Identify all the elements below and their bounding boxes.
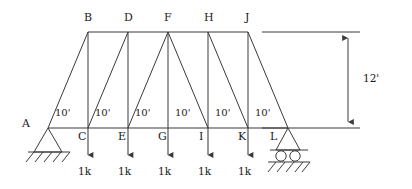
panel-dimension-4: 10': [175, 108, 190, 118]
panel-dimension-1: 10': [55, 108, 70, 118]
load-label-4: 1k: [198, 166, 211, 177]
panel-dimension-3: 10': [135, 108, 150, 118]
node-label-k: K: [238, 131, 246, 142]
panel-dimension-5: 10': [215, 108, 230, 118]
node-label-d: D: [124, 12, 133, 23]
node-label-a: A: [22, 118, 30, 129]
load-label-5: 1k: [238, 166, 251, 177]
truss-geometry: [0, 0, 412, 189]
load-label-2: 1k: [118, 166, 131, 177]
node-label-j: J: [245, 12, 250, 23]
node-label-b: B: [84, 12, 92, 23]
pin-support-a: [26, 128, 70, 162]
node-label-g: G: [158, 131, 167, 142]
node-label-i: I: [199, 131, 204, 142]
load-label-1: 1k: [78, 166, 91, 177]
node-label-c: C: [78, 131, 87, 142]
node-label-f: F: [164, 12, 172, 23]
panel-dimension-6: 10': [255, 108, 270, 118]
truss-diagram: B D F H J A C E G I K L 10' 10' 10' 10' …: [0, 0, 412, 189]
node-label-l: L: [270, 131, 278, 142]
load-label-3: 1k: [158, 166, 171, 177]
node-label-h: H: [204, 12, 214, 23]
height-dimension-label: 12': [363, 73, 379, 84]
panel-dimension-2: 10': [95, 108, 110, 118]
height-dimension-line: [262, 32, 360, 128]
node-label-e: E: [118, 131, 126, 142]
load-arrow: [88, 128, 248, 155]
